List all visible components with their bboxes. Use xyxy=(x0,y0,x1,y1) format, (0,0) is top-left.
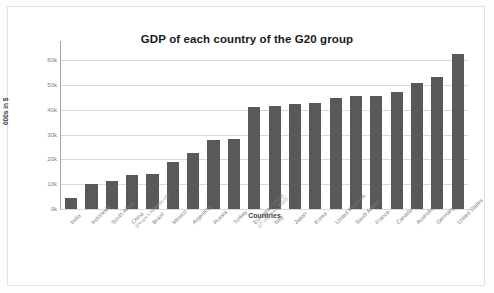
bar[interactable] xyxy=(391,92,403,209)
bar[interactable] xyxy=(330,98,342,209)
x-tick-slot: South Africa xyxy=(102,221,122,291)
x-tick-slot: France xyxy=(366,221,386,291)
x-tick-slot: United Kingdom xyxy=(325,221,345,291)
bar[interactable] xyxy=(431,77,443,209)
bar[interactable] xyxy=(187,153,199,209)
x-tick-slot: Saudi Arabia xyxy=(346,221,366,291)
bar[interactable] xyxy=(452,54,464,209)
bar[interactable] xyxy=(411,83,423,209)
bar[interactable] xyxy=(309,103,321,209)
x-tick-slot: Brazil xyxy=(142,221,162,291)
bar[interactable] xyxy=(207,140,219,209)
chart-card: GDP of each country of the G20 group 000… xyxy=(7,6,485,286)
chart-title: GDP of each country of the G20 group xyxy=(8,33,486,45)
bar-slot xyxy=(81,48,101,209)
bar[interactable] xyxy=(350,96,362,209)
x-tick-slot: European Union(27 countries, 2020) xyxy=(244,221,264,291)
bar[interactable] xyxy=(248,107,260,209)
bar[interactable] xyxy=(167,162,179,209)
bar[interactable] xyxy=(65,198,77,209)
y-axis-tick-label: 10k xyxy=(47,181,57,187)
bar-series xyxy=(61,48,468,209)
bar-slot xyxy=(163,48,183,209)
y-axis-title: 000s in $ xyxy=(2,98,9,125)
x-tick-slot: United States xyxy=(448,221,468,291)
x-tick-slot: Russia xyxy=(203,221,223,291)
x-tick-slot: Argentina xyxy=(183,221,203,291)
bar-slot xyxy=(102,48,122,209)
bar-slot xyxy=(61,48,81,209)
bar-slot xyxy=(264,48,284,209)
x-axis-tick-labels: IndiaIndonesiaSouth AfricaChina(People's… xyxy=(61,221,468,291)
x-tick-slot: Mexico xyxy=(163,221,183,291)
bar-slot xyxy=(224,48,244,209)
x-tick-slot: Japan xyxy=(285,221,305,291)
x-tick-slot: Australia xyxy=(407,221,427,291)
bar[interactable] xyxy=(85,184,97,210)
bar-slot xyxy=(203,48,223,209)
bar-slot xyxy=(305,48,325,209)
x-tick-slot: Korea xyxy=(305,221,325,291)
bar-slot xyxy=(325,48,345,209)
y-axis-tick-label: 40k xyxy=(47,107,57,113)
bar[interactable] xyxy=(228,139,240,209)
x-tick-slot: Turkey xyxy=(224,221,244,291)
x-tick-slot: Italy xyxy=(264,221,284,291)
x-tick-slot: Canada xyxy=(387,221,407,291)
bar[interactable] xyxy=(289,104,301,209)
bar-slot xyxy=(122,48,142,209)
bar-slot xyxy=(183,48,203,209)
x-tick-slot: Indonesia xyxy=(81,221,101,291)
bar-slot xyxy=(387,48,407,209)
y-axis-tick-label: 20k xyxy=(47,156,57,162)
bar[interactable] xyxy=(370,96,382,209)
x-tick-slot: China(People's Republic of) xyxy=(122,221,142,291)
bar-slot xyxy=(407,48,427,209)
bar-slot xyxy=(142,48,162,209)
x-tick-slot: Germany xyxy=(427,221,447,291)
x-tick-slot: India xyxy=(61,221,81,291)
bar-slot xyxy=(448,48,468,209)
y-axis-tick-label: 60k xyxy=(47,57,57,63)
bar-slot xyxy=(285,48,305,209)
bar-slot xyxy=(244,48,264,209)
bar-slot xyxy=(427,48,447,209)
bar-slot xyxy=(366,48,386,209)
bar-slot xyxy=(346,48,366,209)
chart-page: GDP of each country of the G20 group 000… xyxy=(0,0,494,293)
y-axis-tick-label: 50k xyxy=(47,82,57,88)
plot-area: 0k10k20k30k40k50k60k xyxy=(61,48,468,209)
y-axis-tick-label: 0k xyxy=(51,206,57,212)
y-axis-tick-label: 30k xyxy=(47,132,57,138)
